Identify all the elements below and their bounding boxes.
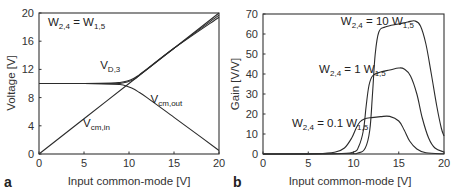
panel-a-curves	[39, 13, 219, 154]
curve-annotation: Vcm,out	[151, 93, 183, 108]
panel-a-annotations: W2,4 = W1,5VD,3Vcm,outVcm,in	[48, 16, 183, 133]
curve-annotation: W2,4 = 0.1 W1,5	[292, 117, 369, 132]
panel-b-annotations: W2,4 = 10 W1,5W2,4 = 1 W1,5W2,4 = 0.1 W1…	[292, 15, 414, 132]
panel-b-xlabel: Input common-mode [V]	[289, 175, 412, 187]
x-tick-label: 20	[438, 157, 450, 169]
x-tick-label: 10	[123, 157, 135, 169]
panel-b-gain-chart: 05101520010203040506070 W2,4 = 10 W1,5W2…	[229, 8, 450, 190]
curve-annotation: W2,4 = 10 W1,5	[341, 15, 415, 30]
x-tick-label: 15	[393, 157, 405, 169]
x-tick-label: 15	[168, 157, 180, 169]
curve-annotation: Vcm,in	[83, 117, 110, 132]
curve-annotation: W2,4 = W1,5	[48, 16, 106, 31]
y-tick-label: 20	[22, 7, 34, 19]
y-tick-label: 0	[252, 148, 258, 160]
y-tick-label: 12	[22, 63, 34, 75]
y-tick-label: 50	[246, 48, 258, 60]
curve-annotation: VD,3	[100, 59, 121, 74]
panel-a-ylabel: Voltage [V]	[5, 55, 17, 111]
panel-a-label: a	[4, 174, 12, 190]
x-tick-label: 0	[260, 157, 266, 169]
y-tick-label: 8	[28, 92, 34, 104]
panel-a-voltage-chart: 05101520048121620 W2,4 = W1,5VD,3Vcm,out…	[4, 7, 225, 190]
y-tick-label: 60	[246, 28, 258, 40]
y-tick-label: 16	[22, 35, 34, 47]
x-tick-label: 10	[347, 157, 359, 169]
y-tick-label: 40	[246, 68, 258, 80]
x-tick-label: 0	[36, 157, 42, 169]
x-tick-label: 5	[305, 157, 311, 169]
x-tick-label: 20	[213, 157, 225, 169]
series-line	[263, 68, 444, 154]
y-tick-label: 30	[246, 88, 258, 100]
y-tick-label: 70	[246, 8, 258, 20]
series-line	[39, 83, 219, 150]
panel-b-curves	[263, 21, 444, 154]
y-tick-label: 20	[246, 108, 258, 120]
y-tick-label: 4	[28, 120, 34, 132]
panel-a-xlabel: Input common-mode [V]	[68, 175, 191, 187]
panel-b-ylabel: Gain [V/V]	[229, 58, 241, 110]
curve-annotation: W2,4 = 1 W1,5	[319, 63, 386, 78]
y-tick-label: 0	[28, 148, 34, 160]
figure: 05101520048121620 W2,4 = W1,5VD,3Vcm,out…	[0, 0, 456, 193]
x-tick-label: 5	[81, 157, 87, 169]
panel-b-label: b	[233, 174, 242, 190]
y-tick-label: 10	[246, 128, 258, 140]
